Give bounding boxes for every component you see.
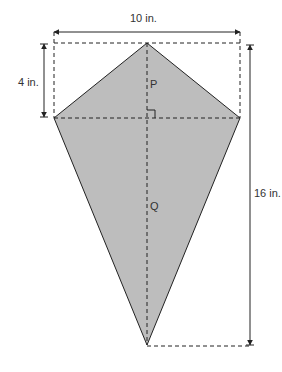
- total-height-label: 16 in.: [254, 187, 281, 199]
- kite-diagram: 10 in. 4 in. 16 in. P Q: [0, 0, 282, 372]
- top-height-label: 4 in.: [18, 76, 39, 88]
- kite-figure: [0, 0, 282, 372]
- point-q-label: Q: [150, 200, 159, 212]
- width-label: 10 in.: [130, 12, 157, 24]
- point-p-label: P: [150, 78, 157, 90]
